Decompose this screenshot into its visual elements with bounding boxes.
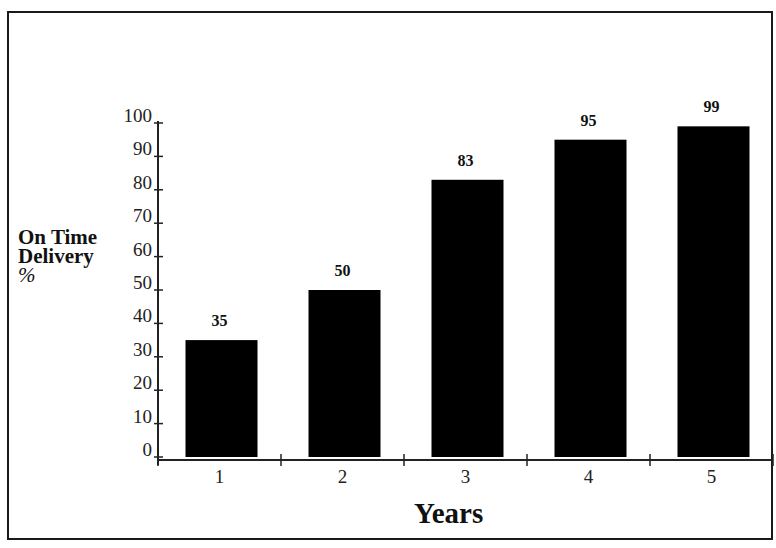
bar-value-label: 50 (335, 262, 351, 279)
bar (186, 340, 258, 457)
y-tick-label: 60 (133, 239, 152, 260)
bar (309, 290, 381, 457)
y-tick-label: 80 (133, 172, 152, 193)
y-axis-label-line-3: % (18, 266, 97, 285)
bar (555, 140, 627, 457)
y-tick-label: 50 (133, 272, 152, 293)
y-tick-label: 30 (133, 339, 152, 360)
y-tick-label: 0 (143, 439, 153, 460)
x-tick-label: 4 (584, 466, 594, 487)
x-tick-label: 2 (338, 466, 348, 487)
bar-value-label: 83 (458, 152, 474, 169)
bar-chart: 3550839599010203040506070809010012345 (0, 0, 776, 548)
y-tick-label: 70 (133, 205, 152, 226)
y-tick-label: 40 (133, 305, 152, 326)
bar-value-label: 35 (212, 312, 228, 329)
x-tick-label: 1 (215, 466, 225, 487)
y-tick-label: 100 (124, 105, 153, 126)
bar-value-label: 95 (581, 112, 597, 129)
y-tick-label: 90 (133, 138, 152, 159)
x-tick-label: 5 (707, 466, 717, 487)
y-axis-label: On Time Delivery % (18, 228, 97, 285)
y-tick-label: 20 (133, 372, 152, 393)
bar-value-label: 99 (704, 98, 720, 115)
x-tick-label: 3 (461, 466, 471, 487)
y-tick-label: 10 (133, 406, 152, 427)
x-axis-label: Years (414, 497, 483, 530)
bar (678, 126, 750, 457)
bar (432, 180, 504, 457)
